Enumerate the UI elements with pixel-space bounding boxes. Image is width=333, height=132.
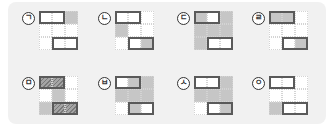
item-label: ㄷ [177,12,190,25]
white-cell [295,76,308,89]
white-cell [269,89,282,102]
white-cell [141,24,154,37]
puzzle-item-8: ㅇ [252,73,322,118]
white-cell [295,11,308,24]
gray-cell [115,89,128,102]
white-cell [194,102,207,115]
white-cell [269,24,282,37]
grid [39,11,78,50]
white-cell [128,24,141,37]
white-cell [128,37,141,50]
gray-cell [194,24,207,37]
white-cell [282,102,295,115]
white-cell [220,37,233,50]
puzzle-item-7: ㅅ [177,73,247,118]
puzzle-item-4: ㄹ [252,8,322,53]
white-cell [282,89,295,102]
gray-cell [128,76,141,89]
gray-cell [194,89,207,102]
white-cell [295,89,308,102]
white-cell [269,76,282,89]
white-cell [295,24,308,37]
white-cell [207,76,220,89]
gray-cell [220,24,233,37]
hatched-cell [52,76,65,89]
gray-cell [269,11,282,24]
gray-cell [194,11,207,24]
white-cell [52,37,65,50]
puzzle-item-3: ㄷ [177,8,247,53]
item-label: ㄱ [22,12,35,25]
white-cell [141,11,154,24]
hatched-cell [52,102,65,115]
grid [115,76,154,115]
gray-cell [207,89,220,102]
white-cell [128,11,141,24]
grid [194,76,233,115]
grid [39,76,78,115]
white-cell [207,11,220,24]
white-cell [39,24,52,37]
white-cell [141,102,154,115]
grid [194,11,233,50]
white-cell [282,37,295,50]
white-cell [115,76,128,89]
gray-cell [39,102,52,115]
white-cell [52,24,65,37]
white-cell [65,24,78,37]
gray-cell [269,102,282,115]
white-cell [207,102,220,115]
puzzle-item-6: ㅂ [98,73,168,118]
gray-cell [141,89,154,102]
white-cell [65,37,78,50]
puzzle-item-2: ㄴ [98,8,168,53]
puzzle-item-1: ㄱ [22,8,92,53]
item-label: ㅇ [252,77,265,90]
white-cell [65,89,78,102]
puzzle-panel: ㄱ ㄴ ㄷ ㄹ ㅁ ㅂ ㅅ ㅇ [8,2,326,124]
white-cell [207,37,220,50]
gray-cell [128,102,141,115]
gray-cell [207,24,220,37]
white-cell [65,76,78,89]
item-label: ㅁ [22,77,35,90]
white-cell [115,11,128,24]
white-cell [39,37,52,50]
item-label: ㄴ [98,12,111,25]
gray-cell [220,11,233,24]
white-cell [295,102,308,115]
gray-cell [220,102,233,115]
gray-cell [220,76,233,89]
white-cell [39,89,52,102]
grid [269,76,308,115]
white-cell [115,102,128,115]
item-label: ㅂ [98,77,111,90]
white-cell [282,24,295,37]
white-cell [52,11,65,24]
grid [269,11,308,50]
gray-cell [128,89,141,102]
white-cell [269,37,282,50]
gray-cell [65,11,78,24]
hatched-cell [65,102,78,115]
gray-cell [141,37,154,50]
white-cell [39,11,52,24]
puzzle-item-5: ㅁ [22,73,92,118]
grid [115,11,154,50]
gray-cell [295,37,308,50]
gray-cell [220,89,233,102]
gray-cell [194,37,207,50]
gray-cell [52,89,65,102]
white-cell [194,76,207,89]
item-label: ㅅ [177,77,190,90]
item-label: ㄹ [252,12,265,25]
gray-cell [115,24,128,37]
white-cell [115,37,128,50]
hatched-cell [39,76,52,89]
gray-cell [141,76,154,89]
white-cell [282,76,295,89]
gray-cell [282,11,295,24]
